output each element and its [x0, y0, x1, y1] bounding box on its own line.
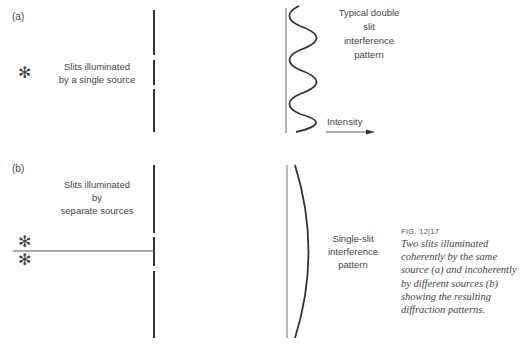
label-line: Typical double [330, 6, 408, 20]
intensity-arrow [326, 130, 375, 135]
intensity-label: Intensity [327, 115, 362, 128]
label-line: Slits illuminated [52, 178, 142, 191]
label-line: pattern [330, 48, 408, 62]
panel-b-pattern-label: Single-slit interference pattern [318, 232, 388, 271]
label-line: Single-slit [318, 232, 388, 245]
label-line: interference [330, 34, 408, 48]
asterisk-icon: ✻ [18, 65, 31, 81]
label-line: separate sources [52, 204, 142, 217]
label-line: slit [330, 20, 408, 34]
panel-b-source-label: Slits illuminated by separate sources [52, 178, 142, 217]
label-line: by a single source [52, 73, 142, 86]
asterisk-icon: ✻ [18, 252, 31, 268]
asterisk-icon: ✻ [18, 234, 31, 250]
single-slit-curve [295, 165, 309, 338]
panel-a-pattern-label: Typical double slit interference pattern [330, 6, 408, 62]
label-line: by [52, 191, 142, 204]
label-line: Slits illuminated [52, 60, 142, 73]
figure-caption: Two slits illuminated coherently by the … [401, 237, 523, 316]
panel-b-label: (b) [12, 163, 24, 174]
panel-a-source-label: Slits illuminated by a single source [52, 60, 142, 86]
label-line: pattern [318, 258, 388, 271]
figure-number: FIG. 12|17 [401, 227, 439, 236]
interference-wave [289, 6, 316, 132]
panel-a-label: (a) [12, 11, 24, 22]
label-line: interference [318, 245, 388, 258]
